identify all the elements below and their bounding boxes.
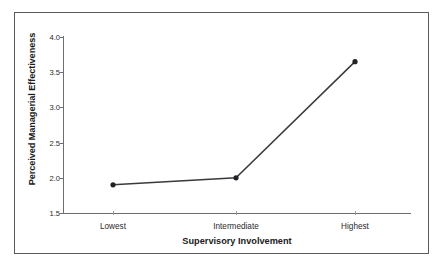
series-line xyxy=(113,62,355,185)
series-markers xyxy=(110,59,357,187)
data-point xyxy=(233,175,238,180)
data-point xyxy=(352,59,357,64)
chart-figure: Perceived Managerial Effectiveness 4.0 3… xyxy=(0,0,442,268)
data-series-layer xyxy=(0,0,442,268)
data-point xyxy=(110,182,115,187)
